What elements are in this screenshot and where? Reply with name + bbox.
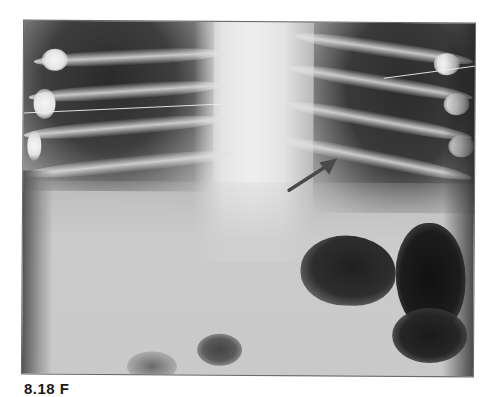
rib-tip — [33, 89, 55, 119]
left-edge-shadow — [22, 171, 53, 374]
rib-tip — [42, 49, 68, 71]
bowel-gas — [127, 351, 177, 376]
gastric-bubble — [300, 235, 395, 306]
xray-image — [22, 21, 475, 377]
bowel-gas — [392, 308, 467, 363]
arrow-icon — [285, 154, 341, 194]
figure-caption: 8.18 F — [24, 381, 70, 396]
bowel-gas — [197, 334, 242, 366]
